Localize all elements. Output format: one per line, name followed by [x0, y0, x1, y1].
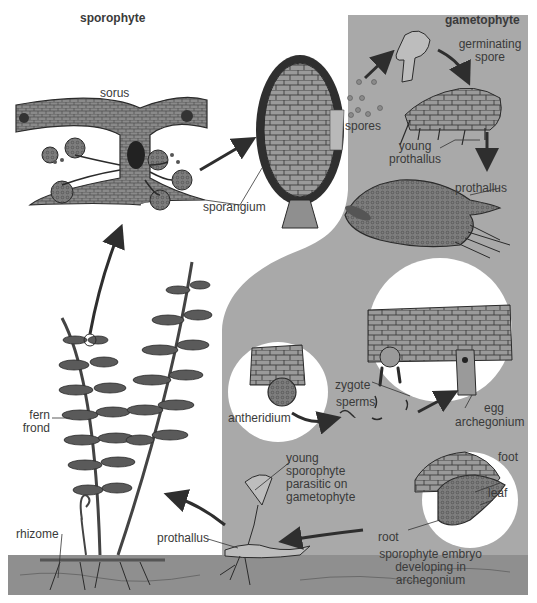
fern-frond-label-line1: fern	[29, 408, 50, 422]
archegonium-label: archegonium	[455, 416, 524, 429]
zygote-label: zygote	[335, 379, 370, 392]
embryo-label-line2: developing in	[395, 560, 466, 574]
sorus-label: sorus	[100, 87, 129, 100]
leaf-label: leaf	[488, 487, 507, 500]
young-sporophyte-label-line1: young	[286, 451, 319, 465]
spores-label: spores	[345, 120, 381, 133]
young-sporophyte-label: young sporophyte parasitic on gametophyt…	[286, 452, 355, 504]
young-sporophyte-label-line3: parasitic on	[286, 477, 347, 491]
foot-label: foot	[498, 451, 518, 464]
arrow-sorus-to-sporangium	[200, 143, 246, 170]
prothallus-ground-label: prothallus	[157, 532, 209, 545]
egg-label: egg	[484, 402, 504, 415]
rhizome-label: rhizome	[16, 528, 59, 541]
germinating-spore-label-line2: spore	[475, 50, 505, 64]
young-sporophyte-label-line2: sporophyte	[286, 464, 345, 478]
fern-frond-label: fern frond	[14, 409, 50, 435]
antheridium-label: antheridium	[228, 412, 291, 425]
sperms-label: sperms	[336, 396, 375, 409]
sporangium-label: sporangium	[203, 201, 266, 214]
prothallus-label: prothallus	[455, 182, 507, 195]
young-sporophyte-label-line4: gametophyte	[286, 490, 355, 504]
young-prothallus-label: young prothallus	[380, 140, 450, 166]
sporophyte-heading: sporophyte	[80, 12, 145, 25]
arrow-young-sporophyte-to-frond	[175, 497, 225, 525]
young-prothallus-label-line1: young	[399, 139, 432, 153]
embryo-label-line1: sporophyte embryo	[379, 547, 482, 561]
fern-life-cycle-diagram: sporophyte gametophyte sorus sporangium …	[0, 0, 537, 603]
sorus-illustration	[16, 97, 207, 210]
young-prothallus-label-line2: prothallus	[389, 152, 441, 166]
sporangium-illustration	[256, 55, 344, 228]
fern-frond-label-line2: frond	[23, 421, 50, 435]
germinating-spore-label: germinating spore	[450, 38, 530, 64]
germinating-spore-label-line1: germinating	[459, 37, 522, 51]
embryo-label-line3: archegonium	[396, 573, 465, 587]
arrow-frond-to-sorus	[90, 235, 118, 334]
root-label: root	[378, 531, 399, 544]
gametophyte-heading: gametophyte	[445, 14, 520, 27]
embryo-label: sporophyte embryo developing in archegon…	[358, 548, 503, 587]
